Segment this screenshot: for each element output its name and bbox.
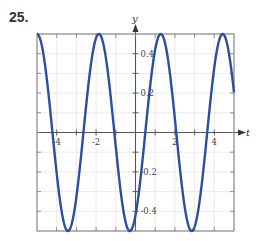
- y-tick-label: 0.2: [141, 88, 155, 98]
- y-axis-label: y: [131, 13, 138, 24]
- x-tick-label: 4: [212, 137, 217, 147]
- x-tick-label: -2: [92, 137, 100, 147]
- y-tick-label: 0.4: [141, 49, 155, 59]
- y-tick-label: -0.2: [141, 167, 157, 177]
- y-tick-label: -0.4: [141, 206, 157, 216]
- x-axis-label: t: [246, 127, 251, 138]
- chart: -4-2240.40.2-0.2-0.4 t y: [0, 0, 259, 241]
